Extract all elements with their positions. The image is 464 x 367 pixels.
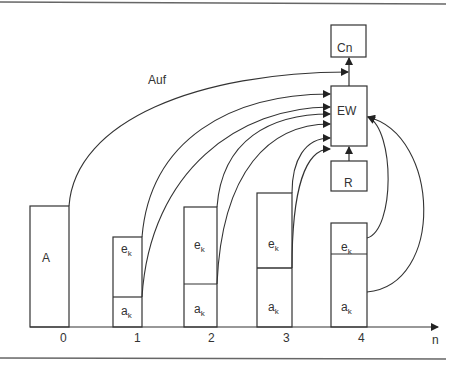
arrow-ak-feedback xyxy=(367,117,424,292)
svg-text:ek: ek xyxy=(194,238,206,254)
arrow-curves-right xyxy=(367,117,424,292)
arrow-auf xyxy=(69,72,348,206)
svg-text:0: 0 xyxy=(60,331,67,345)
axis-ticks: 0 1 2 3 4 n xyxy=(60,331,439,347)
label-a: A xyxy=(42,251,50,265)
svg-text:ek: ek xyxy=(341,240,353,256)
box-a xyxy=(30,206,69,327)
label-ew: EW xyxy=(337,104,357,118)
top-rule xyxy=(0,2,446,4)
svg-text:ak: ak xyxy=(268,300,280,316)
diagram-canvas: Auf Cn EW R A ek ak ek ak ek ak ek ak 0 … xyxy=(0,0,464,367)
label-auf: Auf xyxy=(148,73,167,87)
arrow-curves-left xyxy=(69,72,348,297)
svg-text:3: 3 xyxy=(283,331,290,345)
label-cn: Cn xyxy=(337,41,352,55)
svg-text:ek: ek xyxy=(121,242,133,258)
stack-labels: ek ak ek ak ek ak ek ak xyxy=(121,237,353,320)
svg-text:1: 1 xyxy=(134,331,141,345)
svg-text:2: 2 xyxy=(208,331,215,345)
svg-text:ak: ak xyxy=(194,302,206,318)
svg-text:ak: ak xyxy=(121,304,133,320)
label-r: R xyxy=(344,176,353,190)
axis-label-n: n xyxy=(432,333,439,347)
svg-text:4: 4 xyxy=(358,331,365,345)
arrow-ek-feedback xyxy=(367,117,388,238)
svg-text:ek: ek xyxy=(268,237,280,253)
svg-text:ak: ak xyxy=(341,300,353,316)
bottom-rule xyxy=(0,358,446,359)
